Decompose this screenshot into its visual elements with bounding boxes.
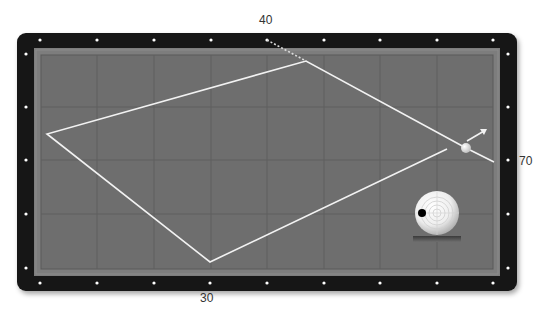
diamond-icon (208, 281, 211, 284)
diamond-icon (506, 212, 509, 215)
diamond-icon (24, 266, 27, 269)
cue-ball (461, 143, 471, 153)
diamond-icon (378, 281, 381, 284)
diamond-icon (152, 38, 155, 41)
diamond-icon (435, 281, 438, 284)
diamond-icon (435, 38, 438, 41)
diamond-icon (491, 281, 494, 284)
spin-base-bar (413, 236, 461, 242)
diamond-icon (24, 212, 27, 215)
diamond-icon (378, 38, 381, 41)
diamond-icon (152, 281, 155, 284)
diamond-icon (24, 105, 27, 108)
diamond-icon (491, 38, 494, 41)
diamond-icon (265, 281, 268, 284)
diamond-icon (24, 158, 27, 161)
top-rail-label: 40 (259, 13, 272, 27)
diamond-icon (322, 281, 325, 284)
diamond-icon (24, 52, 27, 55)
table-drawing (0, 0, 552, 323)
bottom-rail-label: 30 (200, 291, 213, 305)
diamond-icon (95, 281, 98, 284)
diamond-icon (506, 52, 509, 55)
diamond-icon (95, 38, 98, 41)
billiards-diagram: 40 30 70 (0, 0, 552, 323)
diamond-icon (38, 281, 41, 284)
contact-point-icon (418, 209, 426, 217)
diamond-icon (38, 38, 41, 41)
cue-ball-icon (461, 143, 471, 153)
diamond-icon (322, 38, 325, 41)
diamond-icon (209, 38, 212, 41)
diamond-icon (506, 266, 509, 269)
diamond-icon (506, 105, 509, 108)
right-rail-label: 70 (519, 154, 532, 168)
diamond-icon (506, 158, 509, 161)
